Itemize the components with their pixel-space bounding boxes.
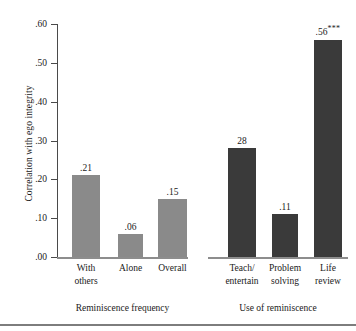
bar	[158, 199, 187, 257]
y-tick-mark	[51, 102, 58, 103]
bar-value-label: .11	[279, 202, 291, 212]
category-label-line: Life	[298, 262, 356, 275]
bottom-divider	[0, 324, 356, 326]
bar-value-label: 28	[237, 136, 247, 146]
bar	[272, 214, 298, 257]
bar-column: .15	[158, 24, 187, 257]
bar-column: .56***	[314, 24, 342, 257]
category-label: Overall	[143, 262, 203, 275]
y-tick-mark	[51, 24, 58, 25]
category-label-line: Overall	[143, 262, 203, 275]
x-axis-baseline-right	[208, 257, 348, 259]
bar-value-label: .21	[80, 163, 92, 173]
bar	[72, 175, 100, 257]
y-tick-mark	[51, 63, 58, 64]
category-label-line: review	[298, 275, 356, 288]
y-tick-label: .50	[17, 58, 47, 68]
y-tick-label: .30	[17, 136, 47, 146]
y-tick-label: .60	[17, 19, 47, 29]
bar	[118, 234, 143, 257]
bar-chart: Correlation with ego integrity .60.50.40…	[0, 0, 356, 331]
bar-value-label: .06	[125, 222, 137, 232]
category-label-line: others	[56, 275, 116, 288]
x-axis-baseline-left	[57, 257, 188, 259]
y-tick-label: .40	[17, 97, 47, 107]
bar-column: .21	[72, 24, 100, 257]
bar-column: .11	[272, 24, 298, 257]
y-tick-label: .10	[17, 213, 47, 223]
group-title-reminiscence-frequency: Reminiscence frequency	[52, 303, 193, 314]
y-tick-label: .20	[17, 174, 47, 184]
significance-marker: ***	[327, 24, 340, 33]
bar-value-label: .15	[167, 187, 179, 197]
y-tick-mark	[51, 179, 58, 180]
y-tick-mark	[51, 218, 58, 219]
category-label: Lifereview	[298, 262, 356, 287]
bar	[228, 148, 256, 257]
bar-column: .06	[118, 24, 143, 257]
group-title-use-of-reminiscence: Use of reminiscence	[205, 303, 351, 314]
y-tick-mark	[51, 141, 58, 142]
bar-column: 28	[228, 24, 256, 257]
bar	[314, 40, 342, 257]
y-tick-label: .00	[17, 252, 47, 262]
bar-value-label: .56***	[316, 24, 341, 37]
